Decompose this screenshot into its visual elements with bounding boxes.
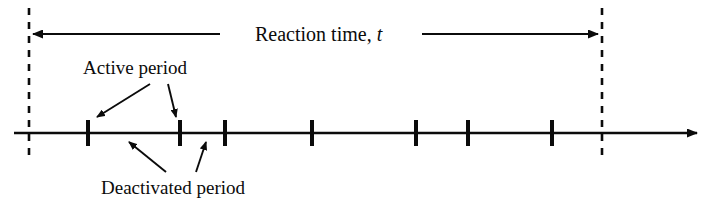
deactivated-period-pointer-right xyxy=(196,142,206,172)
reaction-time-label: Reaction time, t xyxy=(255,24,382,44)
timeline-diagram: Reaction time, t Active period Deactivat… xyxy=(0,0,726,209)
active-period-pointer-right xyxy=(168,84,176,117)
active-period-pointer-left xyxy=(97,84,150,117)
deactivated-period-pointer-left xyxy=(129,142,166,172)
active-period-label: Active period xyxy=(83,58,187,77)
reaction-time-label-text: Reaction time, xyxy=(255,23,377,45)
deactivated-period-label: Deactivated period xyxy=(101,178,245,197)
reaction-time-variable: t xyxy=(377,23,383,45)
